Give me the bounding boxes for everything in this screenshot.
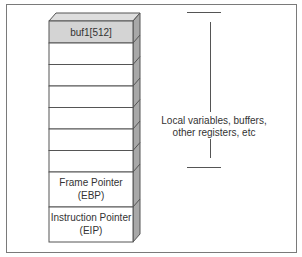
bracket-note-line2: other registers, etc bbox=[173, 127, 256, 138]
stack-cell-empty bbox=[49, 108, 133, 130]
stack-cell-empty bbox=[49, 151, 133, 173]
bracket-note-line1: Local variables, buffers, bbox=[161, 115, 266, 126]
frame-pointer-register: (EBP) bbox=[78, 190, 105, 201]
stack-cell-empty bbox=[49, 65, 133, 87]
stack-diagram: buf1[512] Frame Pointer (EBP) Instructio… bbox=[0, 0, 302, 257]
stack-cell-empty bbox=[49, 43, 133, 65]
frame-pointer-label: Frame Pointer bbox=[59, 177, 123, 188]
stack-cell-empty bbox=[49, 86, 133, 108]
instruction-pointer-label: Instruction Pointer bbox=[51, 212, 132, 223]
stack-top-face bbox=[49, 13, 140, 21]
empty-cells bbox=[49, 43, 133, 172]
buf1-label: buf1[512] bbox=[70, 27, 112, 38]
stack-cell-empty bbox=[49, 129, 133, 151]
instruction-pointer-register: (EIP) bbox=[80, 225, 103, 236]
